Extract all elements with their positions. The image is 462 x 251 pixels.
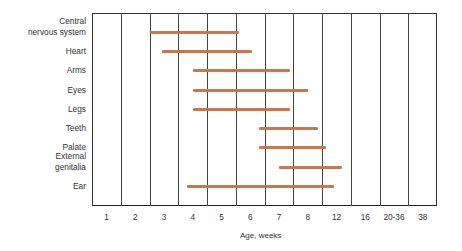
- bar-heart: [162, 50, 251, 53]
- row-label: Arms: [67, 65, 86, 76]
- x-tick-label: 16: [351, 212, 380, 222]
- gridline: [408, 13, 409, 206]
- gridline: [121, 13, 122, 206]
- chart: Centralnervous systemHeartArmsEyesLegsTe…: [0, 0, 462, 251]
- bar-eyes: [193, 89, 308, 92]
- bar-teeth: [259, 127, 318, 130]
- bar-legs: [193, 108, 291, 111]
- x-tick-label: 3: [150, 212, 179, 222]
- row-label: Legs: [68, 104, 86, 115]
- gridline: [351, 13, 352, 206]
- row-label: Teeth: [66, 123, 86, 134]
- x-tick-label: 12: [322, 212, 351, 222]
- x-tick-label: 4: [178, 212, 207, 222]
- x-tick-label: 2: [121, 212, 150, 222]
- bar-ear: [187, 185, 334, 188]
- x-tick-label: 6: [236, 212, 265, 222]
- row-label: Centralnervous system: [28, 16, 86, 38]
- bar-external-genitalia: [279, 166, 342, 169]
- row-label: Heart: [66, 46, 86, 57]
- x-axis-label: Age, weeks: [240, 231, 281, 240]
- x-tick-label: 38: [408, 212, 437, 222]
- gridline: [150, 13, 151, 206]
- row-label: Externalgenitalia: [55, 151, 86, 173]
- x-tick-label: 20-36: [380, 212, 409, 222]
- bar-arms: [193, 69, 291, 72]
- x-tick-label: 5: [207, 212, 236, 222]
- gridline: [380, 13, 381, 206]
- row-label: Eyes: [68, 85, 86, 96]
- bar-palate: [259, 146, 327, 149]
- bar-central-nervous-system: [150, 31, 239, 34]
- row-label: Ear: [73, 181, 86, 192]
- gridline: [178, 13, 179, 206]
- x-tick-label: 8: [293, 212, 322, 222]
- gridline: [322, 13, 323, 206]
- x-tick-label: 7: [265, 212, 294, 222]
- gridline: [293, 13, 294, 206]
- x-tick-label: 1: [92, 212, 121, 222]
